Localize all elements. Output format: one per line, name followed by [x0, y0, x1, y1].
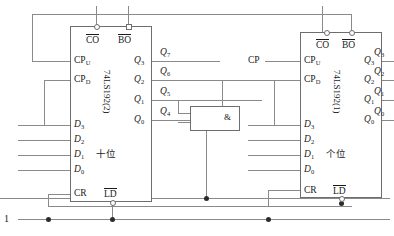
tens-pin-d1-label: D1 — [74, 150, 84, 161]
and-gate-symbol: & — [224, 112, 231, 122]
tens-pin-d3-label: D3 — [74, 120, 84, 131]
tens-ld-marker-icon — [110, 200, 116, 206]
chip-tens-digit-label: 十位 — [96, 146, 116, 160]
ones-pin-ld-label: LD — [333, 187, 346, 197]
ones-co-marker-icon — [324, 30, 330, 36]
wire-ones-cpd-stub — [274, 80, 300, 81]
wire-ld-rail — [0, 198, 390, 199]
wire-ones-q1-bus — [382, 100, 394, 101]
wire-tens-q0-bus — [152, 120, 190, 121]
junction-dot-gate-out — [204, 196, 209, 201]
ones-pin-cpu-label: CPU — [304, 56, 320, 67]
wire-top-rail — [32, 14, 352, 15]
wire-tens-cpu-left-riser — [32, 14, 33, 61]
ones-pin-d1-label: D1 — [304, 150, 314, 161]
and-gate-body[interactable] — [190, 106, 240, 131]
tens-pin-d2-label: D2 — [74, 135, 84, 146]
wire-ones-q3-bus — [382, 61, 394, 62]
wire-tens-q1-bus — [152, 100, 262, 101]
ones-pin-cpd-label: CPD — [304, 75, 320, 86]
wire-tens-d1 — [18, 155, 70, 156]
bus-label-q0: Q0 — [374, 107, 384, 118]
ones-pin-d2-label: D2 — [304, 135, 314, 146]
ones-bo-marker-icon — [349, 30, 355, 36]
junction-dot-one-left — [46, 217, 51, 222]
ones-pin-q1-label: Q1 — [364, 95, 374, 106]
wire-tens-bo-stub — [128, 6, 129, 26]
tens-pin-d0-label: D0 — [74, 165, 84, 176]
wire-ones-d3 — [248, 125, 300, 126]
ones-ld-marker-icon — [339, 196, 345, 202]
tens-pin-cpd-label: CPD — [74, 75, 90, 86]
wire-tens-cr-riser — [48, 194, 49, 206]
wire-ones-cr-riser — [268, 190, 269, 206]
chip-ones-part-label: 74LS192(1) — [332, 70, 342, 114]
tens-pin-bo-label: BO — [118, 36, 131, 46]
circuit-diagram: CO BO CPU CPD D3 D2 D1 D0 CR LD Q3 Q2 Q1… — [0, 0, 394, 236]
tens-pin-cpu-label: CPU — [74, 56, 90, 67]
wire-gate-in-a — [178, 113, 190, 114]
bus-label-q4: Q4 — [160, 107, 170, 118]
wire-tens-d2 — [18, 140, 70, 141]
ones-pin-q0-label: Q0 — [364, 115, 374, 126]
wire-tens-cr-bottom — [48, 206, 352, 207]
wire-cp-to-ones-cpu — [265, 61, 300, 62]
wire-one-rail — [18, 219, 390, 220]
wire-tens-cr-stub — [48, 194, 70, 195]
tens-pin-co-label: CO — [86, 36, 99, 46]
wire-ones-q2-bus — [382, 80, 394, 81]
tens-pin-q3-label: Q3 — [134, 56, 144, 67]
chip-tens-part-label: 74LS192(2) — [102, 70, 112, 114]
wire-tens-d0 — [18, 170, 70, 171]
tens-pin-q0-label: Q0 — [134, 115, 144, 126]
bus-label-q2: Q2 — [374, 67, 384, 78]
ones-pin-cr-label: CR — [304, 186, 317, 196]
ones-pin-d0-label: D0 — [304, 165, 314, 176]
wire-gate-in-b — [178, 122, 190, 123]
bus-label-q7: Q7 — [160, 48, 170, 59]
tens-pin-q1-label: Q1 — [134, 95, 144, 106]
tens-pin-ld-label: LD — [104, 190, 117, 200]
wire-ones-d2 — [248, 140, 300, 141]
tens-pin-cr-label: CR — [74, 189, 87, 199]
wire-ones-cr-stub — [268, 190, 300, 191]
tens-pin-q2-label: Q2 — [134, 75, 144, 86]
wire-tens-co-stub — [96, 6, 97, 26]
tens-bo-marker-icon — [126, 24, 132, 30]
ones-pin-bo-label: BO — [342, 41, 355, 51]
ones-pin-q3-label: Q3 — [364, 56, 374, 67]
wire-ones-cpd-riser — [274, 80, 275, 125]
ones-pin-d3-label: D3 — [304, 120, 314, 131]
clock-input-label: CP — [248, 56, 260, 66]
wire-tens-q3-bus — [152, 61, 220, 62]
wire-ones-q0-bus — [382, 120, 394, 121]
wire-tens-cpu-stub — [32, 61, 70, 62]
ones-pin-q2-label: Q2 — [364, 75, 374, 86]
wire-tens-q2-bus — [152, 80, 282, 81]
wire-ones-d0 — [248, 170, 300, 171]
bus-label-q5: Q5 — [160, 87, 170, 98]
junction-dot-ones-cr — [266, 217, 271, 222]
junction-dot-one-ld — [110, 217, 115, 222]
wire-q5-corner — [178, 100, 179, 113]
tens-co-marker-icon — [94, 24, 100, 30]
wire-gate-out-drop — [206, 131, 207, 198]
wire-tens-cpd-stub — [44, 80, 70, 81]
wire-tens-cpd-riser — [44, 80, 45, 125]
bus-label-q3: Q3 — [374, 48, 384, 59]
logic-one-label: 1 — [4, 213, 9, 224]
bus-label-q6: Q6 — [160, 67, 170, 78]
wire-ones-d1 — [248, 155, 300, 156]
ones-pin-co-label: CO — [316, 41, 329, 51]
bus-label-q1: Q1 — [374, 87, 384, 98]
wire-q6-to-gate — [222, 80, 223, 108]
wire-tens-d3 — [18, 125, 70, 126]
wire-ones-bo-riser — [322, 6, 323, 32]
chip-ones-digit-label: 个位 — [326, 146, 346, 160]
